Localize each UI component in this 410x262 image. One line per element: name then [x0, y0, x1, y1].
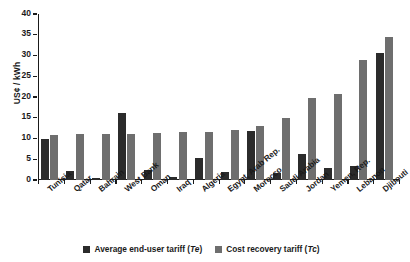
x-axis-tick-label: Tunisia — [46, 169, 73, 194]
legend-label-tc: Cost recovery tariff (Tc) — [226, 244, 319, 254]
x-axis-tick-label: Qatar — [72, 173, 94, 193]
x-axis-tick-label: Algeria — [200, 169, 227, 194]
legend-item-average-end-user-tariff: Average end-user tariff (Te) — [83, 244, 202, 254]
legend-swatch-icon-te — [83, 246, 90, 253]
legend-swatch-icon-tc — [215, 246, 222, 253]
legend-item-cost-recovery-tariff: Cost recovery tariff (Tc) — [215, 244, 319, 254]
x-axis-tick-label: Bahrain — [97, 168, 126, 194]
x-axis-tick-label: Iraq — [175, 177, 192, 193]
legend-label-te: Average end-user tariff (Te) — [94, 244, 202, 254]
x-axis-tick-label: Oman — [149, 172, 172, 194]
chart-legend: Average end-user tariff (Te) Cost recove… — [0, 244, 403, 254]
